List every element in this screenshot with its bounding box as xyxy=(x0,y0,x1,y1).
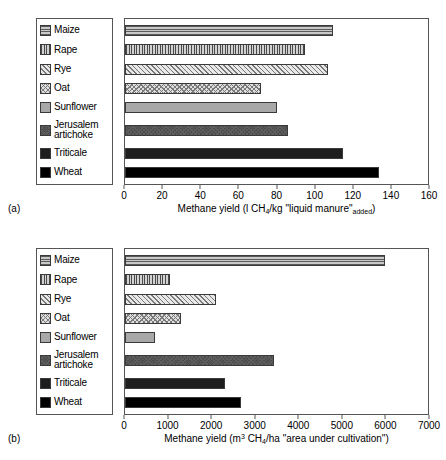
bar-series-a xyxy=(125,19,428,184)
axis-tick-label: 40 xyxy=(195,190,206,201)
bar-slot xyxy=(125,251,428,270)
axis-tick xyxy=(385,415,386,419)
chart-panel-a: MaizeRapeRyeOatSunflowerJerusalem artich… xyxy=(0,0,446,230)
legend-swatch-solid-light-gray-icon xyxy=(40,102,51,113)
axis-tick-label: 6000 xyxy=(374,420,396,431)
axis-tick xyxy=(167,415,168,419)
legend-swatch-diagonal-hatch-icon xyxy=(40,64,51,75)
legend-swatch-crosshatch-icon xyxy=(40,313,51,324)
bar-oat xyxy=(125,313,181,324)
legend-swatch-dark-gray-crosshatch-icon xyxy=(40,125,51,136)
legend-item-wheat: Wheat xyxy=(40,393,112,412)
axis-tick xyxy=(429,415,430,419)
axis-tick-label: 60 xyxy=(233,190,244,201)
legend-label: Rape xyxy=(54,45,77,56)
legend-swatch-very-dark-gray-icon xyxy=(40,148,51,159)
bar-rye xyxy=(125,64,328,75)
x-axis-title-b: Methane yield (m3 CH4/ha "area under cul… xyxy=(124,433,429,445)
legend-items-b: MaizeRapeRyeOatSunflowerJerusalem artich… xyxy=(37,249,112,414)
axis-tick-label: 140 xyxy=(383,190,400,201)
axis-tick-label: 2000 xyxy=(200,420,222,431)
legend-item-wheat: Wheat xyxy=(40,163,112,182)
axis-tick xyxy=(124,185,125,189)
axis-tick xyxy=(200,185,201,189)
legend-label: Rape xyxy=(54,275,77,286)
legend-label: Wheat xyxy=(54,397,82,408)
legend-swatch-horizontal-lines-icon xyxy=(40,255,51,266)
axis-tick xyxy=(276,185,277,189)
axis-tick xyxy=(314,185,315,189)
bar-series-b xyxy=(125,249,428,414)
bar-slot xyxy=(125,309,428,328)
bar-slot xyxy=(125,21,428,40)
bar-slot xyxy=(125,374,428,393)
legend-swatch-diagonal-hatch-icon xyxy=(40,294,51,305)
axis-tick xyxy=(429,185,430,189)
bar-maize xyxy=(125,255,385,266)
axis-tick xyxy=(254,415,255,419)
legend-item-rye: Rye xyxy=(40,290,112,309)
bar-sunflower xyxy=(125,102,277,113)
legend-swatch-solid-black-icon xyxy=(40,397,51,408)
bar-rye xyxy=(125,294,216,305)
legend-label: Sunflower xyxy=(54,332,97,343)
legend-item-triticale: Triticale xyxy=(40,374,112,393)
axis-tick-label: 20 xyxy=(157,190,168,201)
legend-label: Jerusalem artichoke xyxy=(54,350,98,371)
legend-label: Triticale xyxy=(54,148,87,159)
legend-label: Oat xyxy=(54,313,70,324)
bar-slot xyxy=(125,60,428,79)
axis-tick-label: 80 xyxy=(271,190,282,201)
axis-tick xyxy=(162,185,163,189)
bar-slot xyxy=(125,40,428,59)
legend-item-jerusalem: Jerusalem artichoke xyxy=(40,117,112,143)
axis-tick xyxy=(238,185,239,189)
legend-swatch-dark-gray-crosshatch-icon xyxy=(40,355,51,366)
legend-item-oat: Oat xyxy=(40,79,112,98)
legend-item-sunflower: Sunflower xyxy=(40,328,112,347)
legend-swatch-vertical-lines-icon xyxy=(40,274,51,285)
axis-tick-label: 120 xyxy=(344,190,361,201)
axis-tick-label: 0 xyxy=(121,420,127,431)
bar-slot xyxy=(125,117,428,143)
legend-label: Jerusalem artichoke xyxy=(54,120,98,141)
legend-item-jerusalem: Jerusalem artichoke xyxy=(40,347,112,373)
bar-sunflower xyxy=(125,332,155,343)
bar-slot xyxy=(125,79,428,98)
axis-tick xyxy=(298,415,299,419)
legend-item-maize: Maize xyxy=(40,251,112,270)
bar-slot xyxy=(125,393,428,412)
legend-item-rape: Rape xyxy=(40,270,112,289)
bar-slot xyxy=(125,290,428,309)
legend-items-a: MaizeRapeRyeOatSunflowerJerusalem artich… xyxy=(37,19,112,184)
axis-tick-label: 100 xyxy=(306,190,323,201)
legend-label: Triticale xyxy=(54,378,87,389)
legend-swatch-vertical-lines-icon xyxy=(40,44,51,55)
legend-label: Oat xyxy=(54,83,70,94)
methane-yield-figure: MaizeRapeRyeOatSunflowerJerusalem artich… xyxy=(0,0,446,460)
bar-jerusalem-artichoke xyxy=(125,125,288,136)
legend-label: Rye xyxy=(54,294,71,305)
legend-label: Wheat xyxy=(54,167,82,178)
axis-tick-label: 0 xyxy=(121,190,127,201)
axis-tick xyxy=(124,415,125,419)
legend-a: MaizeRapeRyeOatSunflowerJerusalem artich… xyxy=(36,18,113,185)
legend-item-maize: Maize xyxy=(40,21,112,40)
legend-label: Maize xyxy=(54,255,80,266)
axis-tick xyxy=(390,185,391,189)
axis-tick xyxy=(211,415,212,419)
legend-swatch-solid-black-icon xyxy=(40,167,51,178)
legend-item-rape: Rape xyxy=(40,40,112,59)
legend-swatch-crosshatch-icon xyxy=(40,83,51,94)
plot-area-a xyxy=(124,18,429,185)
panel-tag-b: (b) xyxy=(8,433,20,444)
bar-slot xyxy=(125,270,428,289)
axis-tick-label: 5000 xyxy=(331,420,353,431)
axis-tick-label: 4000 xyxy=(287,420,309,431)
axis-tick-label: 160 xyxy=(421,190,438,201)
axis-tick-label: 1000 xyxy=(156,420,178,431)
legend-label: Maize xyxy=(54,25,80,36)
bar-slot xyxy=(125,328,428,347)
legend-label: Sunflower xyxy=(54,102,97,113)
bar-rape xyxy=(125,44,305,55)
